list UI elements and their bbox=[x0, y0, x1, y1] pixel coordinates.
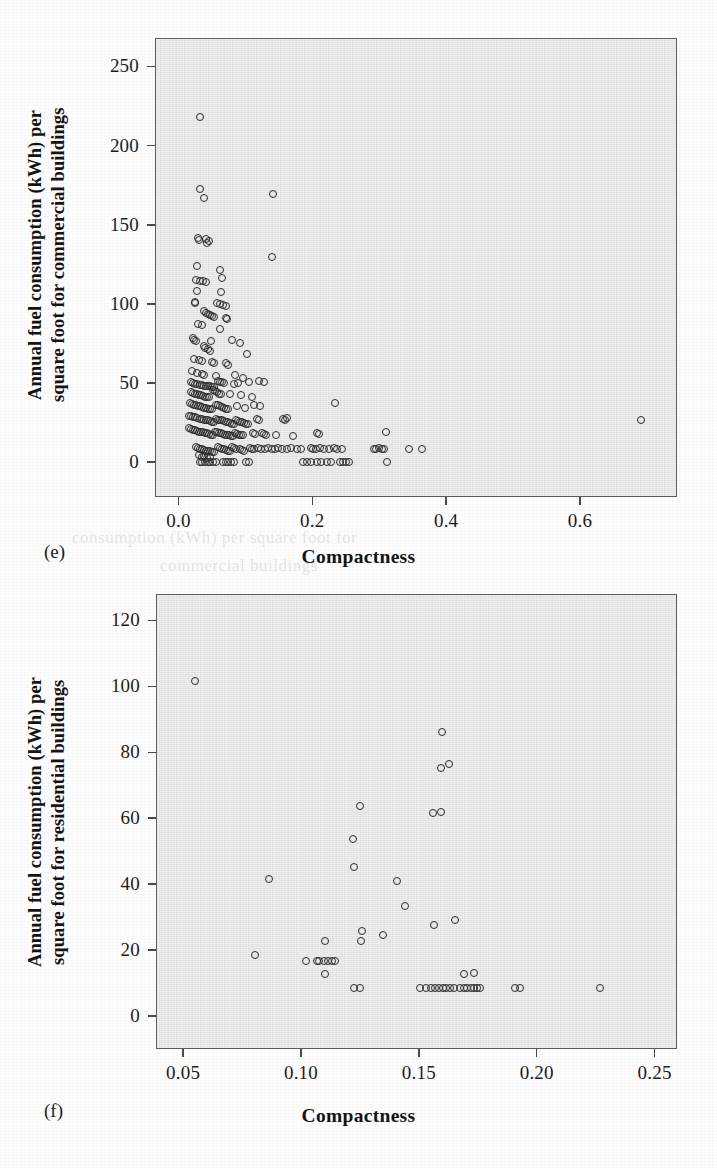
data-point bbox=[596, 984, 604, 992]
y-tick-label: 0 bbox=[56, 1005, 140, 1027]
data-point bbox=[338, 445, 346, 453]
data-point bbox=[331, 399, 339, 407]
y-tick-mark bbox=[147, 66, 155, 68]
y-tick-label: 150 bbox=[55, 214, 139, 236]
x-tick-label: 0.15 bbox=[402, 1062, 436, 1084]
data-point bbox=[438, 728, 446, 736]
data-point bbox=[236, 339, 244, 347]
x-tick-mark bbox=[418, 1049, 420, 1057]
data-point bbox=[192, 337, 200, 345]
data-point bbox=[476, 984, 484, 992]
y-tick-mark bbox=[147, 145, 155, 147]
x-tick-mark bbox=[654, 1049, 656, 1057]
data-point bbox=[198, 321, 206, 329]
data-point bbox=[216, 325, 224, 333]
data-point bbox=[383, 458, 391, 466]
data-point bbox=[196, 113, 204, 121]
data-point bbox=[205, 393, 213, 401]
data-point bbox=[196, 185, 204, 193]
data-point bbox=[356, 984, 364, 992]
data-point bbox=[198, 357, 206, 365]
data-point bbox=[220, 379, 228, 387]
data-point bbox=[401, 902, 409, 910]
data-point bbox=[226, 390, 234, 398]
data-point bbox=[245, 458, 253, 466]
data-point bbox=[231, 371, 239, 379]
data-point bbox=[445, 760, 453, 768]
data-point bbox=[230, 458, 238, 466]
x-tick-label: 0.20 bbox=[520, 1062, 554, 1084]
y-tick-label: 250 bbox=[55, 55, 139, 77]
x-tick-mark bbox=[312, 497, 314, 505]
data-point bbox=[265, 875, 273, 883]
y-tick-mark bbox=[147, 461, 155, 463]
x-axis-title-f: Compactness bbox=[0, 1105, 717, 1127]
x-tick-label: 0.0 bbox=[166, 510, 190, 532]
data-point bbox=[202, 278, 210, 286]
y-tick-label: 80 bbox=[56, 741, 140, 763]
data-point bbox=[193, 262, 201, 270]
data-point bbox=[262, 431, 270, 439]
data-point bbox=[251, 951, 259, 959]
data-point bbox=[405, 445, 413, 453]
data-point bbox=[210, 313, 218, 321]
panel-letter-e: (e) bbox=[44, 541, 65, 563]
data-point bbox=[200, 371, 208, 379]
x-tick-label: 0.4 bbox=[434, 510, 458, 532]
x-tick-label: 0.25 bbox=[638, 1062, 672, 1084]
data-point bbox=[283, 414, 291, 422]
data-point bbox=[207, 337, 215, 345]
y-tick-label: 50 bbox=[55, 372, 139, 394]
y-tick-mark bbox=[147, 303, 155, 305]
y-tick-mark bbox=[148, 620, 156, 622]
data-point bbox=[203, 239, 211, 247]
data-point bbox=[289, 432, 297, 440]
data-point bbox=[358, 927, 366, 935]
y-tick-mark bbox=[148, 1015, 156, 1017]
data-point bbox=[245, 378, 253, 386]
data-point bbox=[357, 937, 365, 945]
plot-texture-f bbox=[157, 595, 676, 1048]
data-point bbox=[222, 302, 230, 310]
data-point bbox=[248, 393, 256, 401]
y-tick-mark bbox=[148, 686, 156, 688]
panel-letter-f: (f) bbox=[44, 1100, 63, 1122]
x-tick-label: 0.6 bbox=[568, 510, 592, 532]
data-point bbox=[224, 405, 232, 413]
data-point bbox=[327, 458, 335, 466]
y-tick-mark bbox=[147, 382, 155, 384]
y-tick-label: 20 bbox=[56, 939, 140, 961]
data-point bbox=[460, 970, 468, 978]
data-point bbox=[224, 361, 232, 369]
data-point bbox=[331, 957, 339, 965]
y-tick-label: 0 bbox=[55, 451, 139, 473]
y-tick-label: 200 bbox=[55, 135, 139, 157]
data-point bbox=[241, 404, 249, 412]
data-point bbox=[382, 428, 390, 436]
data-point bbox=[210, 359, 218, 367]
data-point bbox=[429, 809, 437, 817]
x-tick-mark bbox=[579, 497, 581, 505]
data-point bbox=[321, 937, 329, 945]
y-tick-mark bbox=[148, 752, 156, 754]
data-point bbox=[260, 378, 268, 386]
data-point bbox=[379, 931, 387, 939]
data-point bbox=[191, 677, 199, 685]
data-point bbox=[269, 190, 277, 198]
data-point bbox=[206, 347, 214, 355]
y-tick-label: 40 bbox=[56, 873, 140, 895]
data-point bbox=[191, 299, 199, 307]
figure-panel-e: Annual fuel consumption (kWh) per square… bbox=[0, 0, 717, 584]
data-point bbox=[243, 350, 251, 358]
y-tick-mark bbox=[148, 817, 156, 819]
y-axis-title-e: Annual fuel consumption (kWh) per square… bbox=[24, 40, 70, 470]
data-point bbox=[451, 916, 459, 924]
data-point bbox=[268, 253, 276, 261]
scatter-plot-area-e bbox=[155, 38, 677, 497]
data-point bbox=[193, 287, 201, 295]
data-point bbox=[239, 431, 247, 439]
x-tick-label: 0.2 bbox=[300, 510, 324, 532]
data-point bbox=[315, 430, 323, 438]
y-tick-mark bbox=[148, 949, 156, 951]
y-tick-label: 120 bbox=[56, 609, 140, 631]
